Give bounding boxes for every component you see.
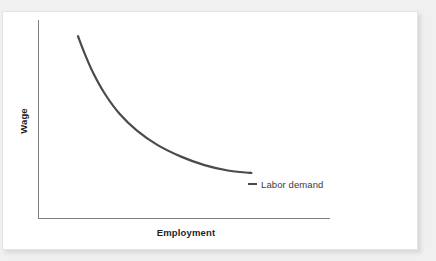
labor-demand-label: Labor demand — [261, 179, 323, 190]
labor-demand-chart: Labor demand Employment Wage — [0, 0, 436, 261]
figure-root: Labor demand Employment Wage — [0, 0, 436, 261]
x-axis-title: Employment — [157, 227, 216, 238]
labor-demand-curve — [78, 36, 251, 173]
y-axis-title: Wage — [18, 108, 29, 134]
